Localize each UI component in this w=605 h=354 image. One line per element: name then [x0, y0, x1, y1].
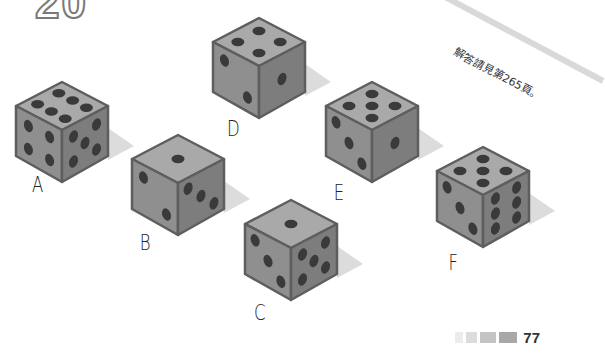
footer-square — [480, 332, 496, 343]
page-number: 77 — [523, 329, 540, 346]
footer-square — [455, 332, 463, 343]
die-label-c: C — [254, 300, 266, 325]
answer-reference-note: 解答請見第265頁。 — [451, 43, 545, 103]
footer-square — [466, 332, 477, 343]
die-c[interactable] — [241, 198, 345, 302]
die-f[interactable] — [433, 145, 537, 249]
die-icon — [322, 80, 426, 184]
die-icon — [433, 145, 537, 249]
puzzle-number: 20 — [35, 0, 88, 28]
die-b[interactable] — [128, 133, 232, 237]
die-a[interactable] — [12, 80, 116, 184]
die-label-a: A — [32, 172, 43, 197]
footer-square — [499, 332, 517, 343]
page-footer: 77 — [455, 329, 540, 346]
die-d[interactable] — [209, 16, 313, 120]
die-e[interactable] — [322, 80, 426, 184]
die-icon — [209, 16, 313, 120]
die-icon — [241, 198, 345, 302]
die-label-d: D — [227, 116, 240, 141]
die-icon — [12, 80, 116, 184]
die-label-e: E — [334, 180, 344, 205]
die-label-b: B — [140, 230, 151, 255]
die-icon — [128, 133, 232, 237]
die-label-f: F — [449, 250, 458, 275]
